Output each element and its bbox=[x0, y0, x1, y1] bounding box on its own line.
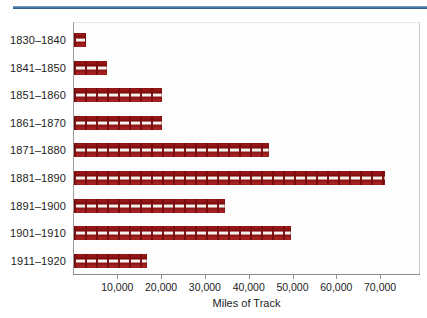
x-axis-tick-mark bbox=[336, 274, 337, 279]
bar-row: 1851–1860 bbox=[0, 81, 427, 109]
bar-row: 1841–1850 bbox=[0, 54, 427, 82]
x-axis-tick-mark bbox=[205, 274, 206, 279]
y-axis-tick-label: 1830–1840 bbox=[0, 26, 66, 54]
x-axis-tick-label: 70,000 bbox=[353, 281, 407, 293]
bar-row: 1881–1890 bbox=[0, 164, 427, 192]
bar bbox=[74, 143, 269, 157]
bar bbox=[74, 171, 385, 185]
x-axis-tick-mark bbox=[117, 274, 118, 279]
y-axis-tick-label: 1861–1870 bbox=[0, 109, 66, 137]
x-axis-tick-mark bbox=[293, 274, 294, 279]
y-axis-tick-label: 1881–1890 bbox=[0, 164, 66, 192]
bar-row: 1911–1920 bbox=[0, 247, 427, 275]
bar-row: 1871–1880 bbox=[0, 136, 427, 164]
x-axis-tick-mark bbox=[380, 274, 381, 279]
y-axis-tick-label: 1841–1850 bbox=[0, 54, 66, 82]
y-axis-tick-label: 1911–1920 bbox=[0, 247, 66, 275]
y-axis-tick-label: 1851–1860 bbox=[0, 81, 66, 109]
y-axis-tick-label: 1901–1910 bbox=[0, 219, 66, 247]
bar bbox=[74, 116, 162, 130]
bar bbox=[74, 226, 291, 240]
bar bbox=[74, 33, 86, 47]
bar bbox=[74, 61, 107, 75]
x-axis-tick-mark bbox=[249, 274, 250, 279]
chart-figure: 1830–18401841–18501851–18601861–18701871… bbox=[0, 0, 427, 318]
bar-row: 1891–1900 bbox=[0, 192, 427, 220]
y-axis-tick-label: 1891–1900 bbox=[0, 192, 66, 220]
bar bbox=[74, 199, 225, 213]
bar bbox=[74, 88, 162, 102]
bar-row: 1901–1910 bbox=[0, 219, 427, 247]
top-rule-divider bbox=[13, 6, 427, 9]
bar bbox=[74, 254, 147, 268]
y-axis-tick-label: 1871–1880 bbox=[0, 136, 66, 164]
x-axis-title: Miles of Track bbox=[73, 297, 420, 309]
x-axis-tick-mark bbox=[161, 274, 162, 279]
bar-row: 1861–1870 bbox=[0, 109, 427, 137]
bar-row: 1830–1840 bbox=[0, 26, 427, 54]
